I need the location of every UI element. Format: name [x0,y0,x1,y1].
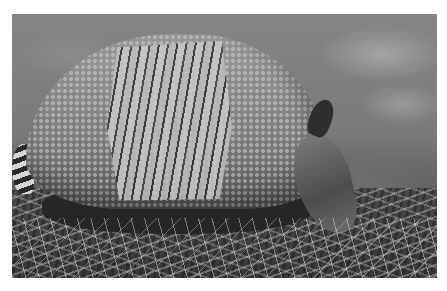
armadillo-photo [12,14,437,278]
armadillo-shell-bands [107,34,232,204]
foreground-grass [12,218,437,278]
